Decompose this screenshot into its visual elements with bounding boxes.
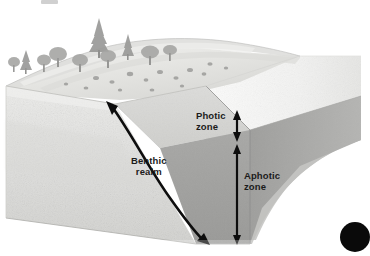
edge-bullet-artifact: [340, 222, 370, 252]
top-edge-artifact: [41, 0, 58, 4]
scan-artifacts: [0, 240, 361, 256]
conifer-tree: [20, 50, 32, 74]
